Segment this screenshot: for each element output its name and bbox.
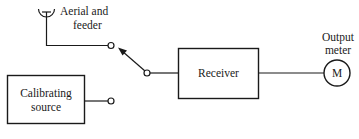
switch-pivot-terminal [144, 70, 150, 76]
aerial-label-line1: Aerial and [60, 5, 108, 17]
diagram-canvas: Aerial and feeder Receiver M Output mete… [0, 0, 359, 139]
calibrating-source-block [8, 76, 85, 124]
switch-terminal-bottom [108, 98, 114, 104]
calibrating-label-line1: Calibrating [20, 87, 72, 100]
aerial-label-line2: feeder [73, 19, 102, 31]
meter-label-line2: meter [325, 44, 351, 56]
receiver-label: Receiver [198, 67, 239, 79]
switch-arrow-icon[interactable] [118, 48, 145, 72]
meter-label-line1: Output [322, 31, 355, 44]
calibrating-label-line2: source [31, 101, 61, 113]
switch-terminal-top [108, 43, 114, 49]
antenna-icon [39, 9, 55, 46]
meter-symbol: M [332, 67, 342, 79]
